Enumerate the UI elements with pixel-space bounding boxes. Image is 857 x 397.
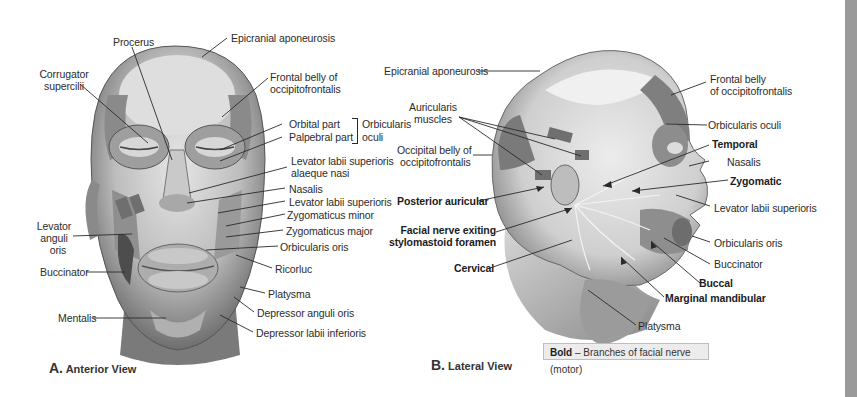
label-orbicularis-oris-a: Orbicularis oris <box>280 241 348 253</box>
label-levator-alaeque-line2: alaeque nasi <box>291 167 349 179</box>
label-levator-alaeque-line1: Levator labii superioris <box>291 155 394 167</box>
orbicularis-oculi-bracket <box>352 118 358 144</box>
label-frontal-belly-b-line1: Frontal belly <box>710 73 766 85</box>
label-frontal-belly-a-line1: Frontal belly of <box>270 71 337 83</box>
anatomy-figure: Procerus Corrugator supercilii Epicrania… <box>0 0 857 397</box>
label-frontal-belly-b-line2: of occipitofrontalis <box>710 85 792 97</box>
label-palpebral-part: Palpebral part <box>289 131 353 143</box>
legend-box: Bold – Branches of facial nerve (motor) <box>543 343 709 360</box>
label-nasalis-a: Nasalis <box>289 183 323 195</box>
label-occipital-belly-line2: occipitofrontalis <box>400 156 471 168</box>
label-zygomaticus-minor: Zygomaticus minor <box>287 209 374 221</box>
label-levator-labii-superioris-a: Levator labii superioris <box>289 196 392 208</box>
label-buccinator-a: Buccinator <box>40 266 89 278</box>
label-facial-nerve-exit-line1: Facial nerve exiting <box>380 224 496 236</box>
label-platysma-b: Platysma <box>638 320 680 332</box>
label-orbicularis-oculi-a-line2: oculi <box>362 131 383 143</box>
label-orbicularis-oris-b: Orbicularis oris <box>714 237 782 249</box>
label-depressor-anguli-oris: Depressor anguli oris <box>257 307 354 319</box>
label-orbicularis-oculi-b: Orbicularis oculi <box>708 119 781 131</box>
label-depressor-labii-inferioris: Depressor labii inferioris <box>256 327 366 339</box>
label-buccal-branch: Buccal <box>699 277 733 289</box>
label-orbicularis-oculi-a-line1: Orbicularis <box>362 118 411 130</box>
anterior-face-illustration <box>85 46 265 365</box>
label-zygomaticus-major: Zygomaticus major <box>286 225 373 237</box>
label-orbital-part: Orbital part <box>289 118 340 130</box>
label-procerus: Procerus <box>113 36 154 48</box>
caption-lateral-view: B. Lateral View <box>431 357 512 373</box>
label-frontal-belly-a-line2: occipitofrontalis <box>270 83 341 95</box>
label-posterior-auricular: Posterior auricular <box>397 195 488 207</box>
legend-dash: – <box>572 347 583 358</box>
caption-text-b: Lateral View <box>448 360 512 372</box>
label-auricularis-line2: muscles <box>405 113 461 125</box>
label-epicranial-aponeurosis-a: Epicranial aponeurosis <box>231 32 335 44</box>
label-risorius: Ricorluc <box>275 263 312 275</box>
label-marginal-mandibular-branch: Marginal mandibular <box>665 292 766 304</box>
label-levator-anguli-line2: anguli <box>32 232 76 244</box>
label-levator-anguli-line3: oris <box>36 244 80 256</box>
caption-letter-b: B. <box>431 357 445 373</box>
label-mentalis: Mentalis <box>58 312 96 324</box>
label-cervical: Cervical <box>454 262 494 274</box>
label-levator-anguli-line1: Levator <box>32 220 76 232</box>
page-edge-strip <box>845 0 857 397</box>
label-auricularis-line1: Auricularis <box>405 101 461 113</box>
label-zygomatic-branch: Zygomatic <box>730 175 782 187</box>
label-platysma-a: Platysma <box>268 288 310 300</box>
label-temporal-branch: Temporal <box>712 138 758 150</box>
caption-text-a: Anterior View <box>66 363 137 375</box>
label-nasalis-b: Nasalis <box>727 156 761 168</box>
label-corrugator-line1: Corrugator <box>36 68 92 80</box>
label-buccinator-b: Buccinator <box>714 258 763 270</box>
caption-anterior-view: A. Anterior View <box>49 360 136 376</box>
label-corrugator-line2: supercilii <box>36 80 92 92</box>
label-levator-labii-superioris-b: Levator labii superioris <box>714 202 817 214</box>
label-facial-nerve-exit-line2: stylomastoid foramen <box>380 236 496 248</box>
legend-bold-word: Bold <box>550 347 572 358</box>
label-occipital-belly-line1: Occipital belly of <box>397 144 472 156</box>
label-epicranial-aponeurosis-b: Epicranial aponeurosis <box>384 65 488 77</box>
caption-letter-a: A. <box>49 360 63 376</box>
